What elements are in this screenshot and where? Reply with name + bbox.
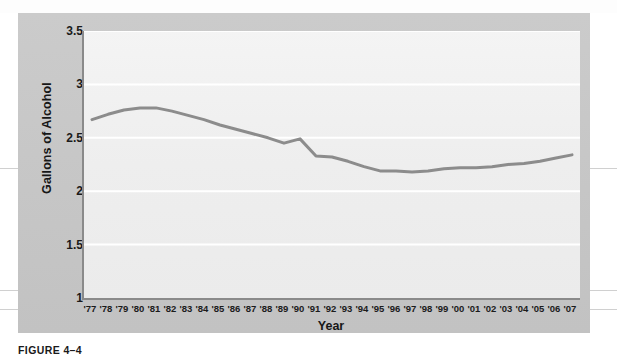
y-tick-label: 3.5 [49, 25, 83, 37]
data-series-line [92, 108, 572, 172]
plot-svg [84, 31, 580, 298]
page-background-top [0, 0, 617, 13]
y-tick-label: 3 [49, 78, 83, 90]
chart-panel: Gallons of Alcohol 3.532.521.51 '77'78'7… [18, 13, 590, 333]
figure-caption: FIGURE 4–4 [18, 344, 82, 356]
series-path-gallons-of-alcohol [92, 108, 572, 172]
x-tick-label: '07 [559, 302, 581, 316]
x-axis-tick-labels: '77'78'79'80'81'82'83'84'85'86'87'88'89'… [82, 302, 580, 318]
y-tick-label: 2.5 [49, 132, 83, 144]
y-tick-label: 1 [49, 292, 83, 304]
plot-area [82, 31, 580, 300]
y-tick-label: 2 [49, 185, 83, 197]
x-axis-title: Year [82, 319, 580, 333]
figure-root: Gallons of Alcohol 3.532.521.51 '77'78'7… [0, 0, 617, 363]
y-tick-label: 1.5 [49, 239, 83, 251]
page-background-bottom [0, 333, 617, 363]
y-axis-tick-labels: 3.532.521.51 [45, 13, 83, 333]
gridlines [84, 31, 580, 245]
